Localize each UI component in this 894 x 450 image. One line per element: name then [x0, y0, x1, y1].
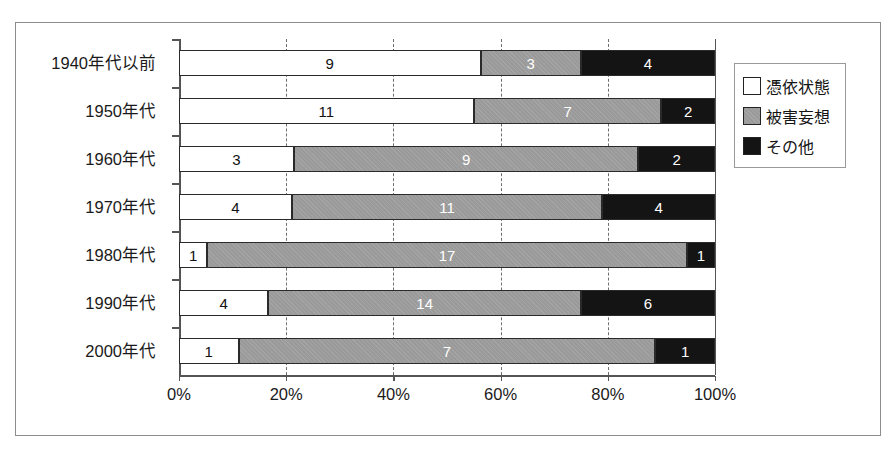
x-axis-tick: [501, 376, 502, 381]
bar-value-label: 1: [681, 344, 689, 359]
y-axis-label: 1970年代: [85, 194, 156, 220]
x-axis-tick: [286, 376, 287, 381]
y-axis-tick: [172, 183, 179, 185]
chart-figure-frame: 1940年代以前1950年代1960年代1970年代1980年代1990年代20…: [15, 22, 881, 436]
bar-segment: 14: [268, 290, 581, 316]
bar-value-label: 17: [439, 248, 456, 263]
y-axis-label: 1940年代以前: [51, 50, 156, 76]
legend-item[interactable]: 憑依状態: [743, 71, 839, 101]
bar-value-label: 7: [563, 104, 571, 119]
bar-row: 1171: [179, 242, 715, 268]
black-square-icon: [743, 137, 761, 155]
bar-value-label: 7: [443, 344, 451, 359]
y-axis-tick: [172, 231, 179, 233]
bar-value-label: 4: [654, 200, 662, 215]
gridline: [715, 39, 716, 375]
x-axis-tick-label: 20%: [270, 385, 303, 404]
bar-segment: 2: [638, 146, 715, 172]
y-axis-label: 1980年代: [85, 242, 156, 268]
x-axis-tick-label: 40%: [377, 385, 410, 404]
bar-row: 171: [179, 338, 715, 364]
bar-value-label: 11: [319, 104, 335, 119]
bar-segment: 1: [687, 242, 715, 268]
bar-row: 392: [179, 146, 715, 172]
bar-segment: 6: [581, 290, 715, 316]
legend-label: その他: [766, 134, 814, 158]
bar-segment: 1: [179, 338, 239, 364]
plot-area: 9341172392411411714146171 0%20%40%60%80%…: [179, 39, 715, 375]
bar-segment: 17: [207, 242, 687, 268]
bar-value-label: 6: [644, 296, 652, 311]
bar-segment: 11: [292, 194, 602, 220]
y-axis-label: 1960年代: [85, 146, 156, 172]
bar-segment: 3: [179, 146, 294, 172]
bar-value-label: 3: [527, 56, 535, 71]
bar-value-label: 9: [462, 152, 470, 167]
x-axis-line: [179, 375, 715, 377]
bar-segment: 9: [179, 50, 481, 76]
bar-value-label: 2: [684, 104, 692, 119]
bar-value-label: 9: [326, 56, 334, 71]
bar-value-label: 2: [673, 152, 681, 167]
bar-segment: 11: [179, 98, 474, 124]
bar-segment: 4: [581, 50, 715, 76]
bar-value-label: 4: [231, 200, 239, 215]
x-axis-tick-label: 100%: [694, 385, 736, 404]
bar-segment: 4: [179, 290, 268, 316]
x-axis-tick-label: 60%: [484, 385, 517, 404]
white-square-icon: [743, 77, 761, 95]
x-axis-tick-label: 80%: [591, 385, 624, 404]
bar-segment: 4: [179, 194, 292, 220]
bar-value-label: 1: [189, 248, 197, 263]
bar-segment: 7: [474, 98, 662, 124]
y-axis-category-labels: 1940年代以前1950年代1960年代1970年代1980年代1990年代20…: [16, 39, 164, 375]
x-axis-tick: [179, 376, 180, 381]
chart-legend: 憑依状態被害妄想その他: [734, 63, 846, 168]
x-axis-tick: [715, 376, 716, 381]
bar-value-label: 11: [439, 200, 455, 215]
y-axis-tick: [172, 39, 179, 41]
legend-item[interactable]: 被害妄想: [743, 101, 839, 131]
bar-value-label: 4: [219, 296, 227, 311]
legend-label: 憑依状態: [766, 74, 830, 98]
bar-segment: 1: [179, 242, 207, 268]
bar-value-label: 1: [205, 344, 213, 359]
legend-label: 被害妄想: [766, 104, 830, 128]
bar-row: 4146: [179, 290, 715, 316]
bar-segment: 1: [655, 338, 715, 364]
y-axis-tick: [172, 135, 179, 137]
x-axis-tick: [393, 376, 394, 381]
bar-segment: 3: [481, 50, 582, 76]
bar-row: 1172: [179, 98, 715, 124]
bar-row: 4114: [179, 194, 715, 220]
y-axis-tick: [172, 87, 179, 89]
bar-value-label: 4: [644, 56, 652, 71]
bar-row: 934: [179, 50, 715, 76]
bar-value-label: 14: [416, 296, 433, 311]
bar-value-label: 3: [232, 152, 240, 167]
bar-value-label: 1: [697, 248, 705, 263]
y-axis-tick: [172, 327, 179, 329]
legend-item[interactable]: その他: [743, 131, 839, 161]
y-axis-label: 1990年代: [85, 290, 156, 316]
bar-segment: 4: [602, 194, 715, 220]
y-axis-label: 1950年代: [85, 98, 156, 124]
gray-square-icon: [743, 107, 761, 125]
x-axis-tick: [608, 376, 609, 381]
x-axis-tick-label: 0%: [167, 385, 191, 404]
bar-segment: 7: [239, 338, 656, 364]
bar-segment: 9: [294, 146, 639, 172]
bar-segment: 2: [661, 98, 715, 124]
y-axis-label: 2000年代: [85, 338, 156, 364]
y-axis-tick: [172, 279, 179, 281]
